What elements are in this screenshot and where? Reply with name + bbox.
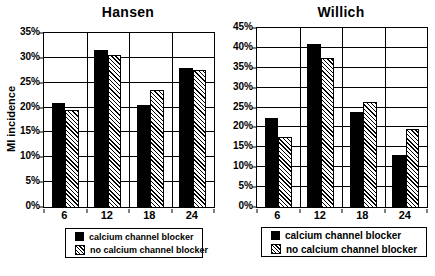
y-tick-mark — [39, 157, 43, 158]
x-tick-label: 24 — [186, 209, 198, 221]
y-tick-mark — [252, 47, 256, 48]
legend-label-ccb: calcium channel blocker — [285, 230, 401, 241]
chart-title-willich: Willich — [256, 4, 426, 20]
v-gridline — [129, 33, 130, 207]
x-tick-label: 12 — [101, 209, 113, 221]
x-tick-mark — [214, 209, 215, 213]
x-tick-label: 24 — [399, 209, 411, 221]
x-tick-label: 6 — [274, 209, 280, 221]
chart-title-hansen: Hansen — [43, 4, 213, 20]
x-tick-label: 12 — [314, 209, 326, 221]
y-tick-mark — [252, 187, 256, 188]
legend-hansen: calcium channel blocker no calcium chann… — [65, 228, 203, 258]
x-tick-label: 18 — [143, 209, 155, 221]
y-tick-labels: 0%5%10%15%20%25%30%35%40%45% — [227, 27, 253, 206]
bar-willich-series0-month12 — [307, 44, 320, 207]
y-tick-label: 0% — [26, 201, 40, 211]
y-tick-label: 5% — [26, 176, 40, 186]
diagonal-hatch-swatch-icon — [271, 244, 281, 254]
bar-willich-series1-month6 — [278, 137, 291, 207]
y-tick-mark — [252, 87, 256, 88]
bar-hansen-series0-month18 — [137, 105, 150, 207]
x-tick-labels: 6121824 — [43, 209, 213, 223]
v-gridline — [172, 33, 173, 207]
bar-hansen-series1-month18 — [150, 90, 163, 207]
x-tick-label: 18 — [356, 209, 368, 221]
diagonal-hatch-swatch-icon — [75, 245, 85, 255]
y-tick-mark — [39, 207, 43, 208]
y-tick-label: 30% — [233, 81, 253, 91]
y-tick-mark — [39, 132, 43, 133]
y-tick-label: 35% — [20, 27, 40, 37]
y-tick-label: 25% — [233, 101, 253, 111]
legend-item-ccb: calcium channel blocker — [75, 232, 200, 242]
y-tick-mark — [39, 57, 43, 58]
bar-hansen-series0-month12 — [94, 50, 107, 207]
y-tick-label: 15% — [20, 126, 40, 136]
solid-black-swatch-icon — [75, 232, 84, 241]
legend-item-ccb: calcium channel blocker — [271, 230, 424, 241]
legend-label-ccb: calcium channel blocker — [89, 232, 194, 242]
y-tick-label: 35% — [233, 61, 253, 71]
figure: Hansen MI incidence 0%5%10%15%20%25%30%3… — [0, 0, 435, 276]
y-tick-mark — [252, 147, 256, 148]
v-gridline — [385, 28, 386, 207]
bar-hansen-series0-month24 — [179, 68, 192, 207]
y-tick-mark — [252, 127, 256, 128]
y-tick-mark — [39, 107, 43, 108]
y-tick-mark — [252, 67, 256, 68]
bar-hansen-series1-month24 — [193, 70, 206, 207]
y-tick-label: 15% — [233, 141, 253, 151]
y-tick-mark — [39, 82, 43, 83]
x-tick-labels: 6121824 — [256, 209, 426, 223]
bar-hansen-series1-month6 — [65, 110, 78, 207]
y-tick-label: 10% — [233, 161, 253, 171]
y-tick-mark — [39, 33, 43, 34]
y-tick-mark — [252, 207, 256, 208]
y-tick-mark — [252, 167, 256, 168]
y-tick-label: 10% — [20, 151, 40, 161]
bar-hansen-series1-month12 — [108, 55, 121, 207]
bar-willich-series1-month12 — [321, 58, 334, 207]
plot-area-hansen — [43, 32, 215, 208]
y-tick-label: 25% — [20, 76, 40, 86]
bar-willich-series0-month18 — [350, 112, 363, 207]
y-tick-labels: 0%5%10%15%20%25%30%35% — [14, 32, 40, 206]
bar-willich-series0-month24 — [392, 155, 405, 207]
y-tick-label: 40% — [233, 41, 253, 51]
v-gridline — [87, 33, 88, 207]
y-tick-label: 20% — [233, 121, 253, 131]
bar-hansen-series0-month6 — [52, 103, 65, 207]
bar-willich-series1-month18 — [363, 102, 376, 207]
y-tick-label: 20% — [20, 101, 40, 111]
v-gridline — [342, 28, 343, 207]
plot-area-willich — [256, 27, 428, 208]
solid-black-swatch-icon — [271, 231, 280, 240]
x-tick-mark — [427, 209, 428, 213]
legend-item-no-ccb: no calcium channel blocker — [271, 244, 424, 255]
y-tick-mark — [252, 107, 256, 108]
bar-willich-series0-month6 — [265, 118, 278, 208]
y-tick-label: 0% — [239, 201, 253, 211]
y-tick-mark — [252, 28, 256, 29]
legend-label-no-ccb: no calcium channel blocker — [286, 244, 417, 255]
y-tick-label: 30% — [20, 51, 40, 61]
legend-item-no-ccb: no calcium channel blocker — [75, 245, 200, 255]
y-tick-label: 5% — [239, 181, 253, 191]
legend-label-no-ccb: no calcium channel blocker — [90, 245, 208, 255]
legend-willich: calcium channel blocker no calcium chann… — [261, 227, 427, 257]
x-tick-label: 6 — [61, 209, 67, 221]
y-tick-mark — [39, 182, 43, 183]
bar-willich-series1-month24 — [406, 129, 419, 207]
v-gridline — [300, 28, 301, 207]
y-tick-label: 45% — [233, 22, 253, 32]
